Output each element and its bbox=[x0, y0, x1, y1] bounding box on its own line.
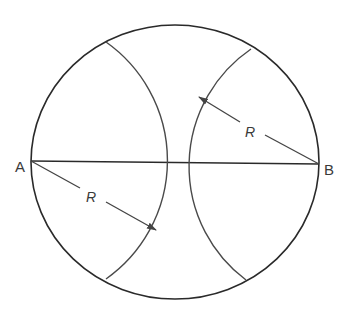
point-label-a: A bbox=[15, 158, 25, 175]
arc-centered-a bbox=[106, 42, 167, 279]
radius-dimension-a-segment2 bbox=[106, 202, 156, 230]
geometry-diagram: R R A B bbox=[0, 0, 350, 325]
point-label-b: B bbox=[324, 161, 334, 178]
radius-dimension-a-segment1 bbox=[31, 161, 80, 188]
radius-dimension-b-segment1 bbox=[265, 135, 319, 164]
radius-label-b: R bbox=[245, 124, 255, 140]
chord-ab bbox=[31, 161, 319, 164]
radius-label-a: R bbox=[86, 189, 96, 205]
arc-centered-b bbox=[189, 49, 251, 280]
radius-dimension-b-segment2 bbox=[199, 97, 240, 122]
